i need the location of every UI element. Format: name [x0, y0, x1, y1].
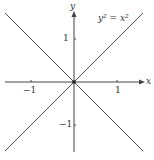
- origin-point: [72, 80, 76, 84]
- x-axis-label: x: [146, 77, 151, 86]
- y-axis-label: y: [70, 2, 75, 11]
- equation-annotation: y² = x²: [98, 14, 129, 23]
- y-tick-label-neg1: −1: [59, 120, 72, 129]
- x-axis-arrow-icon: [139, 80, 145, 85]
- x-tick-label-neg1: −1: [23, 86, 36, 95]
- y-axis-arrow-icon: [72, 11, 77, 17]
- plot-area: [0, 0, 154, 160]
- y-tick-label-1: 1: [63, 34, 69, 43]
- x-tick-label-1: 1: [115, 86, 121, 95]
